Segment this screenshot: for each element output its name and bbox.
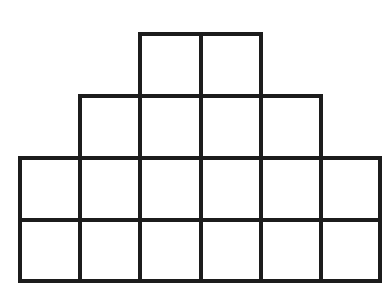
square-r4-c2 [80, 220, 140, 281]
square-r3-c2 [80, 158, 140, 220]
square-r1-c4 [201, 34, 261, 96]
square-r3-c5 [261, 158, 321, 220]
square-r4-c4 [201, 220, 261, 281]
square-r3-c6 [321, 158, 380, 220]
square-grid-figure [0, 0, 390, 297]
square-r3-c4 [201, 158, 261, 220]
square-r4-c3 [140, 220, 201, 281]
square-r1-c3 [140, 34, 201, 96]
square-r3-c3 [140, 158, 201, 220]
square-r2-c3 [140, 96, 201, 158]
square-r2-c4 [201, 96, 261, 158]
square-r4-c6 [321, 220, 380, 281]
square-r4-c5 [261, 220, 321, 281]
square-r2-c5 [261, 96, 321, 158]
square-r2-c2 [80, 96, 140, 158]
square-r3-c1 [20, 158, 80, 220]
square-r4-c1 [20, 220, 80, 281]
figure-canvas [0, 0, 390, 297]
